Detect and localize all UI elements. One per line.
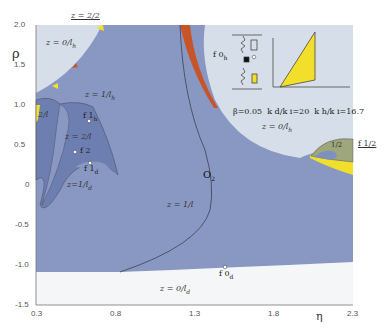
y-tick: 0.5 [14, 140, 25, 149]
label-z0h-right: z = 0/lh [262, 122, 292, 133]
y-tick: 2.0 [14, 20, 25, 29]
sub-d: d [230, 273, 234, 280]
x-tick: 0.3 [31, 309, 42, 318]
y-tick: 0 [25, 180, 29, 189]
sub-h: h [111, 94, 115, 101]
label-f0d-text: f 0 [219, 269, 230, 278]
label-z1: z = 1/l [167, 200, 193, 209]
label-f1d: f 1d [84, 164, 98, 175]
x-tick: 1.8 [268, 309, 279, 318]
label-f0d: f 0d [219, 269, 233, 280]
label-z0d-text: z = 0/l [160, 284, 186, 293]
label-params: β=0.05 k d/k i=20 k h/k i=16.7 [233, 107, 364, 116]
label-f1d-text: f 1 [84, 164, 95, 173]
label-z0h: z = 0/lh [46, 38, 76, 49]
label-f1h-text: f 1 [83, 111, 94, 120]
label-z22: z = 2/2 [71, 11, 100, 20]
x-tick: 2.3 [347, 309, 358, 318]
label-f12: f 1/2 [358, 139, 376, 148]
label-z1d-text: z=1/l [67, 180, 88, 189]
x-tick: 1.3 [189, 309, 200, 318]
sub-d: d [95, 168, 99, 175]
y-tick: 1.5 [14, 60, 25, 69]
label-z1h: z = 1/lh [85, 90, 115, 101]
phase-diagram: z = 2/2 z = 0/lh z = 1/lh 2/l z = 2/l z=… [0, 0, 389, 335]
label-z1h-text: z = 1/l [85, 90, 111, 99]
sub-d: d [88, 184, 92, 191]
y-tick: -1.5 [15, 300, 29, 309]
y-axis-label: ρ [12, 46, 20, 61]
y-tick: -1.0 [15, 260, 29, 269]
label-z2l: z = 2/l [65, 132, 91, 141]
label-o2-text: O [203, 169, 211, 180]
label-f0h: f 0h [213, 50, 227, 61]
sub-d: d [186, 288, 190, 295]
y-tick: 1.0 [14, 100, 25, 109]
sub-h: h [94, 115, 98, 122]
label-f2: f 2 [80, 146, 91, 155]
label-z0d: z = 0/ld [160, 284, 190, 295]
sub-h: h [72, 42, 76, 49]
label-z0h-right-text: z = 0/l [262, 122, 288, 131]
label-f0h-text: f 0 [213, 50, 224, 59]
sub-h: h [224, 54, 228, 61]
x-axis-label: η [316, 310, 323, 323]
label-2l-small: 2/l [38, 110, 48, 119]
label-f1h: f 1h [83, 111, 97, 122]
sub-h: h [288, 126, 292, 133]
label-half: 1/2 [331, 141, 342, 149]
label-z0h-text: z = 0/l [46, 38, 72, 47]
label-o2: O2 [203, 169, 215, 182]
x-tick: 0.8 [110, 309, 121, 318]
label-z1d: z=1/ld [67, 180, 92, 191]
y-tick: -0.5 [15, 220, 29, 229]
sub-2: 2 [211, 175, 215, 182]
